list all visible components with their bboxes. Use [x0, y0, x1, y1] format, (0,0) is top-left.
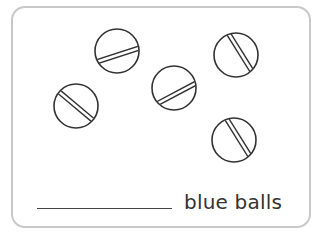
ball-icon	[152, 66, 202, 110]
ball-icon	[92, 29, 145, 73]
ball-icon	[212, 113, 256, 162]
answer-label: blue balls	[184, 190, 282, 214]
ball-icon	[54, 84, 98, 128]
ball-icon	[214, 28, 258, 77]
answer-blank-line[interactable]	[37, 208, 172, 209]
